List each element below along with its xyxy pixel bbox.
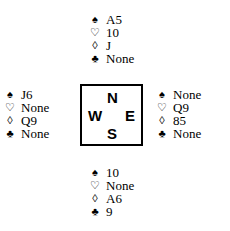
spade-icon: ♠: [157, 88, 167, 101]
club-icon: ♣: [90, 52, 100, 65]
heart-icon: ♡: [157, 101, 167, 114]
diamond-icon: ◊: [90, 192, 100, 205]
spade-icon: ♠: [90, 166, 100, 179]
compass-west-label: W: [88, 108, 102, 123]
north-clubs: None: [106, 52, 134, 65]
heart-icon: ♡: [90, 179, 100, 192]
compass-box: N W E S: [80, 84, 143, 146]
diamond-icon: ◊: [5, 114, 15, 127]
club-icon: ♣: [5, 127, 15, 140]
diamond-icon: ◊: [90, 39, 100, 52]
west-clubs: None: [21, 127, 49, 140]
east-clubs: None: [173, 127, 201, 140]
spade-icon: ♠: [5, 88, 15, 101]
compass-south-label: S: [107, 126, 117, 141]
club-icon: ♣: [90, 205, 100, 218]
compass-north-label: N: [107, 90, 118, 105]
heart-icon: ♡: [90, 26, 100, 39]
heart-icon: ♡: [5, 101, 15, 114]
compass-east-label: E: [125, 108, 135, 123]
spade-icon: ♠: [90, 13, 100, 26]
south-clubs: 9: [106, 205, 113, 218]
diamond-icon: ◊: [157, 114, 167, 127]
club-icon: ♣: [157, 127, 167, 140]
